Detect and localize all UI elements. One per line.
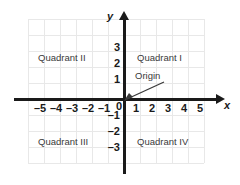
origin-leader-arrow-icon (124, 80, 166, 102)
x-tick-label-3: 3 (160, 102, 176, 114)
y-tick-label-neg3: –3 (106, 141, 120, 153)
x-tick-label-1: 1 (128, 102, 144, 114)
quadrant-4-label: Quadrant IV (137, 136, 188, 147)
y-axis-arrow-icon (119, 11, 129, 20)
y-tick-label-3: 3 (106, 41, 120, 53)
y-tick-label-1: 1 (106, 73, 120, 85)
gridline-vertical (92, 19, 93, 163)
x-tick-label-neg2: –2 (80, 102, 96, 114)
x-tick-label-neg5: –5 (32, 102, 48, 114)
x-axis-label: x (224, 99, 230, 111)
quadrant-2-label: Quadrant II (38, 52, 86, 63)
gridline-horizontal (28, 163, 204, 164)
x-tick-label-neg4: –4 (48, 102, 64, 114)
gridline-vertical (28, 19, 29, 163)
x-tick-label-neg3: –3 (64, 102, 80, 114)
y-tick-label-neg2: –2 (106, 125, 120, 137)
gridline-vertical (204, 19, 205, 163)
y-tick-label-neg1: –1 (106, 109, 120, 121)
gridline-horizontal (28, 19, 204, 20)
quadrant-1-label: Quadrant I (137, 52, 182, 63)
y-tick-label-2: 2 (106, 57, 120, 69)
gridline-horizontal (28, 35, 204, 36)
x-tick-label-4: 4 (176, 102, 192, 114)
y-axis-label: y (107, 10, 113, 22)
quadrant-3-label: Quadrant III (38, 136, 88, 147)
x-tick-label-2: 2 (144, 102, 160, 114)
x-tick-label-5: 5 (192, 102, 208, 114)
coordinate-plane-figure: x y –5 –4 –3 –2 –1 0 1 2 3 4 5 3 2 1 –1 … (0, 0, 240, 185)
